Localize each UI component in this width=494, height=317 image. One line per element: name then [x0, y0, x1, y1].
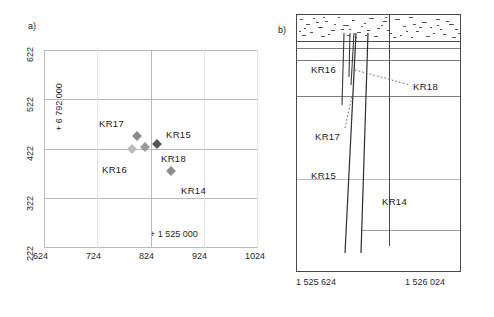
panel-a-ytick-622: 622	[26, 47, 35, 62]
borehole-trace-kr14[interactable]	[361, 33, 368, 253]
panel-a-xtick-924: 924	[192, 252, 207, 261]
leader-line-kr18	[355, 70, 410, 85]
data-label-kr18: KR18	[161, 154, 186, 164]
data-label-kr14: KR14	[181, 186, 206, 196]
cross-section-frame: KR16 KR18 KR17 KR15 KR14	[296, 14, 461, 272]
data-label-kr15: KR15	[166, 130, 191, 140]
figure-root: a) 622 522 422 322 222 + 6 792 000 624 7…	[0, 0, 494, 317]
panel-a-xtick-824: 824	[139, 252, 154, 261]
panel-b-xlabel-right: 1 526 024	[405, 278, 445, 287]
borehole-traces	[297, 15, 461, 272]
data-point-kr17[interactable]	[132, 131, 142, 141]
data-point-kr15[interactable]	[152, 139, 162, 149]
data-point-kr18[interactable]	[140, 142, 150, 152]
gridline-v-724	[97, 50, 98, 248]
panel-a-ytick-522: 522	[26, 97, 35, 112]
panel-b-xlabel-left: 1 525 624	[296, 278, 336, 287]
borehole-trace-kr16[interactable]	[342, 33, 344, 105]
data-label-kr16: KR16	[102, 165, 127, 175]
borehole-label-kr17: KR17	[315, 132, 340, 142]
borehole-trace-kr15[interactable]	[345, 33, 356, 253]
gridline-v-1024	[257, 50, 258, 248]
gridline-v-624	[44, 50, 45, 248]
panel-a-xtick-724: 724	[86, 252, 101, 261]
gridline-v-824	[151, 50, 152, 248]
panel-a-plot-area: KR17 KR15 KR16 KR18 KR14	[44, 50, 258, 248]
panel-a-xtick-1024: 1024	[245, 252, 265, 261]
data-label-kr17: KR17	[99, 119, 124, 129]
borehole-label-kr14: KR14	[382, 197, 407, 207]
panel-b-tag: b)	[278, 26, 286, 35]
panel-a-ytick-322: 322	[26, 196, 35, 211]
panel-a: a) 622 522 422 322 222 + 6 792 000 624 7…	[0, 0, 266, 317]
data-point-kr16[interactable]	[127, 144, 137, 154]
panel-a-xtick-624: 624	[33, 252, 48, 261]
borehole-label-kr18: KR18	[413, 82, 438, 92]
panel-a-tag: a)	[28, 22, 36, 31]
data-point-kr14[interactable]	[166, 166, 176, 176]
panel-b: b)	[266, 0, 494, 317]
gridline-v-924	[204, 50, 205, 248]
panel-a-ytick-422: 422	[26, 146, 35, 161]
borehole-trace-kr17[interactable]	[349, 33, 350, 77]
borehole-label-kr16: KR16	[311, 65, 336, 75]
borehole-label-kr15: KR15	[311, 171, 336, 181]
